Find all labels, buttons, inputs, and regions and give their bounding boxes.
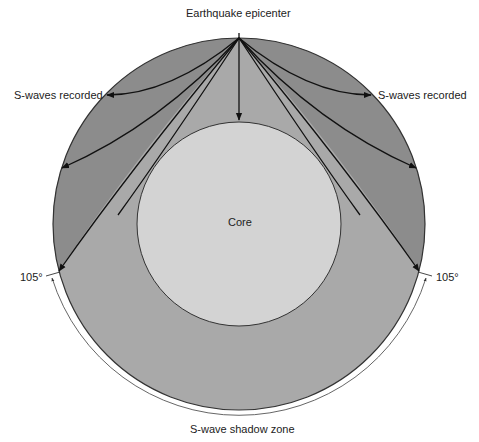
- core-label: Core: [228, 217, 252, 228]
- s-waves-recorded-left-label: S-waves recorded: [14, 90, 103, 101]
- epicenter-label: Earthquake epicenter: [186, 8, 291, 19]
- angle-left-label: 105°: [20, 272, 43, 283]
- s-waves-recorded-right-label: S-waves recorded: [378, 90, 467, 101]
- angle-right-label: 105°: [436, 272, 459, 283]
- shadow-zone-label: S-wave shadow zone: [190, 424, 295, 435]
